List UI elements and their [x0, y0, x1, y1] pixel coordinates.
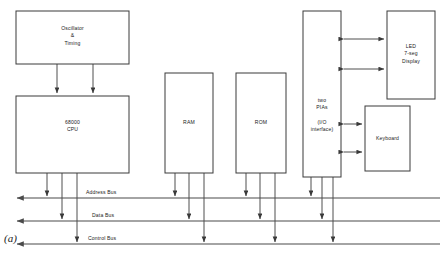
block-oscillator: [16, 11, 129, 64]
block-rom: [236, 73, 286, 173]
bus-label-data: Data Bus: [92, 212, 114, 218]
bus-label-address: Address Bus: [86, 189, 117, 195]
block-led-display: [387, 11, 435, 99]
block-cpu: [16, 96, 129, 173]
bus-label-control: Control Bus: [88, 235, 116, 241]
block-keyboard: [365, 106, 410, 171]
figure-caption: (a): [4, 232, 17, 244]
block-ram: [165, 73, 213, 173]
block-pia: [303, 11, 341, 177]
diagram-vector-layer: [0, 0, 443, 259]
block-diagram-canvas: Oscillator & Timing 68000 CPU RAM ROM tw…: [0, 0, 443, 259]
